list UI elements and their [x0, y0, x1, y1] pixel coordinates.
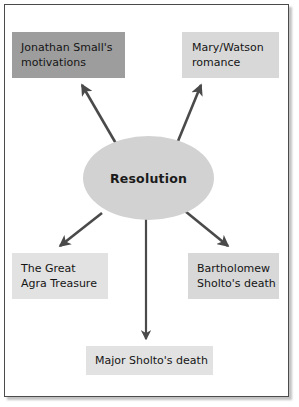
node-mary-watson-romance[interactable]: Mary/Watson romance	[182, 32, 279, 78]
node-bartholomew-sholto-death[interactable]: Bartholomew Sholto's death	[188, 253, 279, 299]
node-line: Agra Treasure	[21, 276, 108, 291]
node-line: Mary/Watson	[192, 40, 279, 55]
diagram-frame: Resolution Jonathan Small's motivations …	[4, 4, 289, 397]
node-line: The Great	[21, 261, 108, 276]
arrow-to-jonathan-small-motivations	[82, 85, 118, 147]
node-line: Sholto's death	[197, 276, 279, 291]
center-node-resolution[interactable]: Resolution	[83, 136, 214, 220]
center-node-label: Resolution	[110, 171, 187, 186]
node-line: Jonathan Small's	[21, 40, 125, 55]
node-major-sholto-death[interactable]: Major Sholto's death	[86, 346, 213, 375]
arrow-to-great-agra-treasure	[60, 213, 102, 246]
node-line: Bartholomew	[197, 261, 279, 276]
arrow-to-mary-watson-romance	[176, 85, 201, 146]
node-line: Major Sholto's death	[95, 353, 213, 368]
node-jonathan-small-motivations[interactable]: Jonathan Small's motivations	[12, 32, 125, 78]
node-great-agra-treasure[interactable]: The Great Agra Treasure	[12, 253, 108, 299]
node-line: romance	[192, 55, 279, 70]
arrow-to-bartholomew-sholto-death	[185, 211, 228, 246]
node-line: motivations	[21, 55, 125, 70]
